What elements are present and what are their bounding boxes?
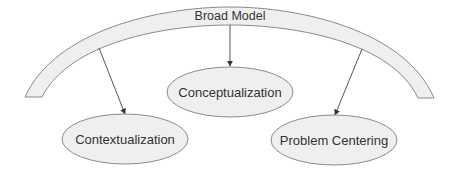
arrow-to-contextualization [99,48,125,114]
node-conceptualization: Conceptualization [167,67,293,117]
node-contextualization: Contextualization [62,114,188,164]
diagram-canvas: Broad Model Conceptualization Contextual… [0,0,461,176]
node-problem-centering: Problem Centering [271,115,397,165]
broad-model-label: Broad Model [195,9,266,23]
conceptualization-label: Conceptualization [178,85,281,100]
arrow-to-problem-centering [335,49,362,115]
problem-centering-label: Problem Centering [280,133,388,148]
contextualization-label: Contextualization [75,132,175,147]
